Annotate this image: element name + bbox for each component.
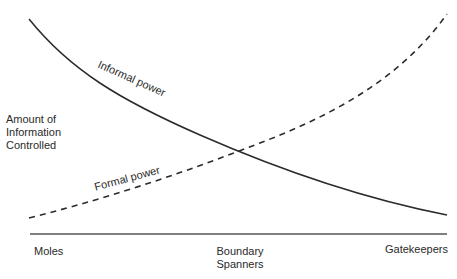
formal-power-curve: [29, 14, 447, 218]
y-axis-label: Amount of Information Controlled: [6, 113, 86, 152]
x-tick-moles: Moles: [34, 245, 63, 258]
y-axis-label-line-3: Controlled: [6, 139, 86, 152]
x-tick-boundary-line-1: Boundary: [214, 245, 266, 258]
y-axis-label-line-1: Amount of: [6, 113, 86, 126]
x-tick-gatekeepers: Gatekeepers: [385, 243, 448, 256]
x-tick-boundary-spanners: Boundary Spanners: [214, 245, 266, 271]
x-tick-boundary-line-2: Spanners: [214, 258, 266, 271]
y-axis-label-line-2: Information: [6, 126, 86, 139]
informal-power-curve: [29, 19, 447, 215]
